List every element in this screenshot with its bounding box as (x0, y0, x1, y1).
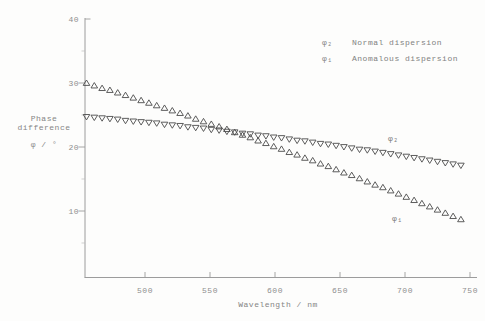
data-point-phi2 (356, 147, 363, 152)
data-point-phi2 (99, 116, 106, 121)
data-point-phi2 (411, 155, 418, 160)
data-point-phi1 (356, 175, 363, 180)
data-point-phi2 (325, 142, 332, 147)
y-tick-label: 40 (68, 15, 79, 24)
data-point-phi1 (107, 87, 114, 92)
data-point-phi1 (364, 179, 371, 184)
data-point-phi1 (348, 172, 355, 177)
data-point-phi2 (302, 139, 309, 144)
data-point-phi1 (309, 157, 316, 162)
data-point-phi2 (341, 145, 348, 150)
data-point-phi1 (442, 210, 449, 215)
data-point-phi2 (450, 162, 457, 167)
data-point-phi1 (114, 90, 121, 95)
data-point-phi1 (403, 194, 410, 199)
data-point-phi2 (83, 115, 90, 120)
data-point-phi1 (426, 204, 433, 209)
data-point-phi2 (192, 125, 199, 130)
legend-label-normal-dispersion: Normal dispersion (352, 38, 442, 47)
chart-canvas: 10203040 500550600650700750 φ₂φ₁ Phase d… (0, 0, 485, 321)
data-point-phi1 (200, 118, 207, 123)
x-axis-title: Wavelength / nm (238, 300, 318, 309)
y-tick-label: 10 (68, 207, 79, 216)
data-point-phi2 (177, 123, 184, 128)
data-point-phi1 (317, 161, 324, 166)
data-point-phi1 (419, 200, 426, 205)
data-point-phi2 (263, 134, 270, 139)
data-point-phi2 (91, 115, 98, 120)
data-point-phi2 (107, 116, 114, 121)
data-point-phi2 (255, 133, 262, 138)
data-point-phi2 (153, 121, 160, 126)
data-point-phi1 (91, 83, 98, 88)
data-point-phi2 (224, 129, 231, 134)
data-point-phi2 (387, 152, 394, 157)
y-axis-ticks: 10203040 (68, 15, 90, 244)
data-point-phi2 (278, 136, 285, 141)
data-point-phi1 (185, 113, 192, 118)
series-annotations: φ₂φ₁ (388, 134, 403, 223)
data-point-phi1 (208, 121, 215, 126)
x-tick-label: 550 (202, 286, 218, 295)
data-point-phi2 (270, 135, 277, 140)
data-point-phi2 (286, 137, 293, 142)
data-point-phi2 (138, 120, 145, 125)
y-axis-title-line1: Phase (31, 114, 58, 123)
legend-label-anomalous-dispersion: Anomalous dispersion (352, 54, 458, 63)
data-point-phi1 (153, 102, 160, 107)
data-point-phi1 (146, 100, 153, 105)
data-point-phi2 (309, 140, 316, 145)
x-tick-label: 600 (267, 286, 283, 295)
data-point-phi1 (458, 216, 465, 221)
data-point-phi1 (286, 149, 293, 154)
data-point-phi2 (348, 146, 355, 151)
data-point-phi1 (278, 146, 285, 151)
x-axis-ticks: 500550600650700750 (137, 272, 478, 295)
data-series (83, 80, 464, 222)
data-point-phi1 (138, 97, 145, 102)
x-tick-label: 650 (332, 286, 348, 295)
x-tick-label: 700 (397, 286, 413, 295)
data-point-phi2 (161, 122, 168, 127)
data-point-phi2 (122, 118, 129, 123)
data-point-phi2 (434, 159, 441, 164)
data-point-phi1 (411, 197, 418, 202)
data-point-phi1 (333, 166, 340, 171)
data-point-phi1 (263, 140, 270, 145)
data-point-phi1 (99, 85, 106, 90)
x-tick-label: 500 (137, 286, 153, 295)
data-point-phi2 (426, 158, 433, 163)
y-axis-title-symbol: φ / ° (31, 140, 58, 149)
data-point-phi2 (317, 141, 324, 146)
y-tick-label: 30 (68, 79, 79, 88)
y-axis-title-line2: difference (17, 123, 70, 132)
data-point-phi1 (161, 105, 168, 110)
data-point-phi1 (122, 92, 129, 97)
data-point-phi2 (185, 125, 192, 130)
data-point-phi2 (114, 117, 121, 122)
data-point-phi2 (364, 148, 371, 153)
data-point-phi2 (208, 127, 215, 132)
data-point-phi1 (434, 207, 441, 212)
data-point-phi2 (169, 123, 176, 128)
series-annotation: φ₁ (392, 214, 403, 223)
data-point-phi1 (395, 191, 402, 196)
legend-symbol-anomalous-dispersion: φ₁ (322, 54, 333, 63)
series-annotation: φ₂ (388, 134, 399, 143)
data-point-phi2 (200, 126, 207, 131)
data-point-phi2 (419, 157, 426, 162)
legend: φ₂ Normal dispersion φ₁ Anomalous disper… (322, 38, 458, 63)
data-point-phi1 (192, 116, 199, 121)
data-point-phi1 (372, 182, 379, 187)
data-point-phi2 (442, 161, 449, 166)
data-point-phi1 (177, 110, 184, 115)
x-tick-label: 750 (462, 286, 478, 295)
data-point-phi1 (302, 155, 309, 160)
data-point-phi2 (333, 143, 340, 148)
legend-symbol-normal-dispersion: φ₂ (322, 38, 333, 47)
series-phi2 (83, 115, 464, 169)
data-point-phi2 (130, 119, 137, 124)
data-point-phi2 (458, 163, 465, 168)
data-point-phi2 (380, 150, 387, 155)
data-point-phi1 (270, 143, 277, 148)
